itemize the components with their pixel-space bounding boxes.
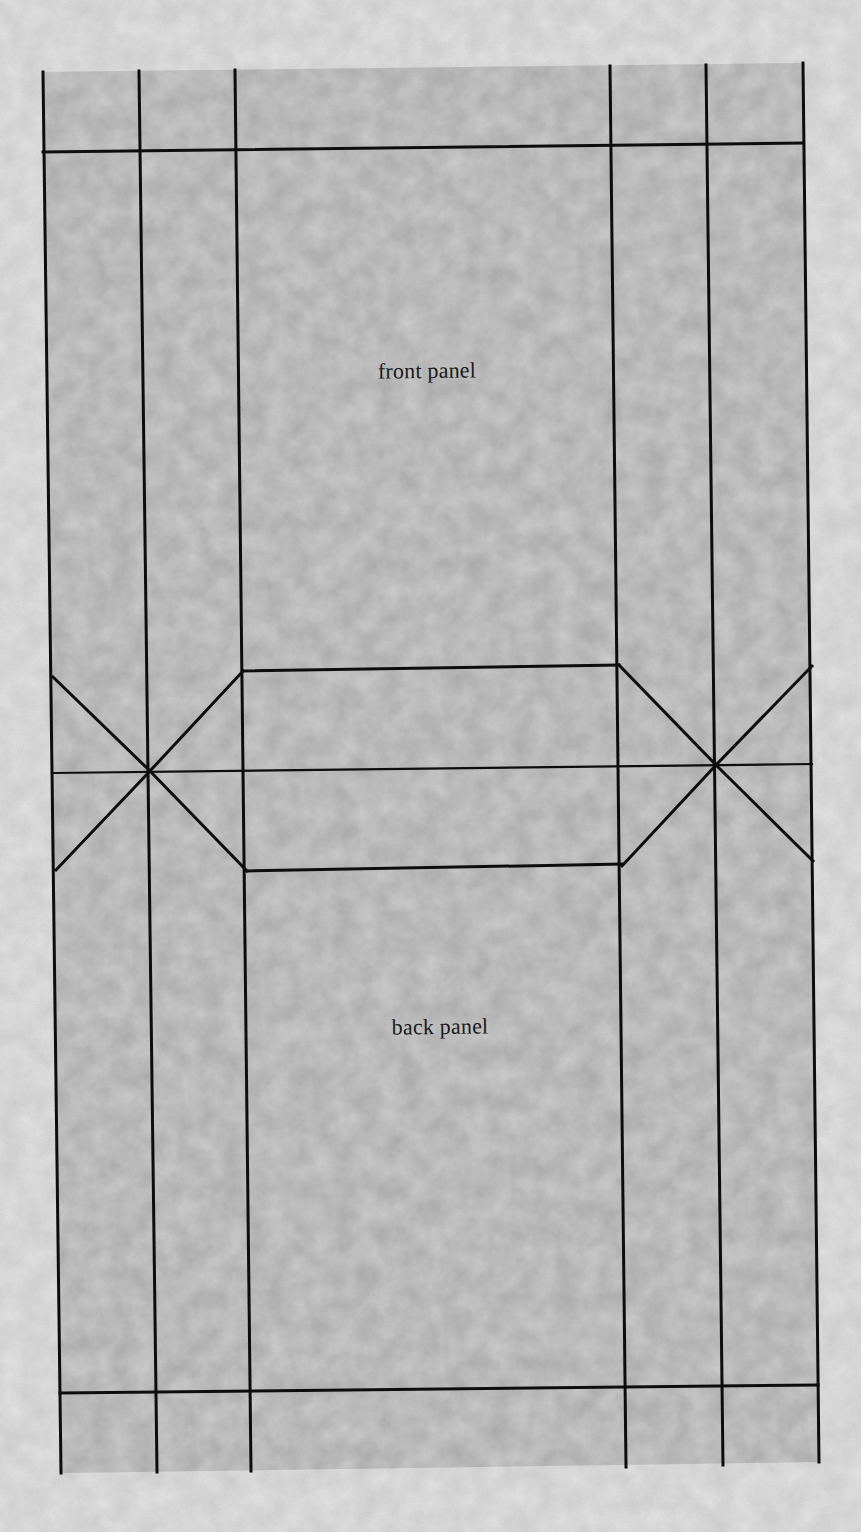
octagon-top-line (243, 665, 619, 671)
octagon-bottom-line (247, 864, 622, 871)
right-x-upper-outer-line (716, 666, 812, 765)
left-x-lower-outer-line (56, 771, 150, 870)
left-x-upper-inner-line (150, 671, 243, 771)
front-panel-label: front panel (378, 357, 476, 384)
right-x-upper-inner-line (619, 665, 716, 765)
back-panel-label: back panel (392, 1013, 489, 1040)
right-x-lower-inner-line (622, 765, 716, 866)
fold-and-cut-lines (43, 63, 819, 1473)
left-x-upper-outer-line (53, 677, 150, 771)
center-fold-line (54, 764, 812, 773)
right-x-lower-outer-line (716, 765, 813, 861)
top-tuck-fold-line (43, 143, 803, 152)
left-x-lower-inner-line (150, 771, 247, 871)
right-edge-line (803, 63, 819, 1462)
box-template-diagram (0, 0, 861, 1532)
bottom-tuck-fold-line (60, 1385, 818, 1393)
